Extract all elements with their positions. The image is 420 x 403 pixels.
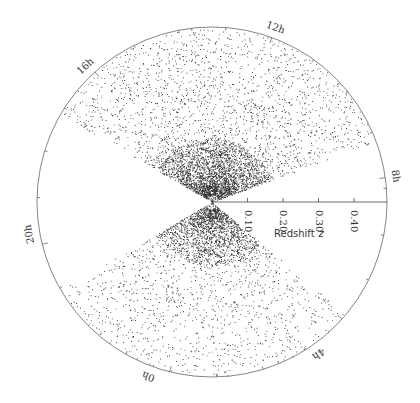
ra-label: 12h [265,19,287,36]
redshift-tick-label: 0.10 [243,210,254,232]
galaxy-points [64,29,369,376]
ra-label: 4h [310,346,327,363]
redshift-tick-label: 0.40 [349,210,360,232]
redshift-cone-plot: 0.100.200.300.40 8h12h16h20h0h4h Redshif… [0,0,420,403]
ra-label: 8h [390,169,403,184]
ra-label: 20h [22,223,36,244]
ra-label: 0h [140,369,156,384]
